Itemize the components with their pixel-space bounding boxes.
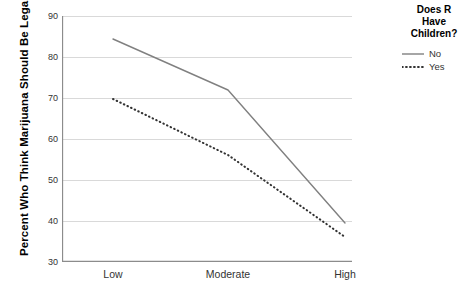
legend-title-line: Children? <box>398 28 470 40</box>
y-tick-label: 90 <box>28 12 58 21</box>
y-tick-label: 40 <box>28 217 58 226</box>
y-tick-label: 70 <box>28 94 58 103</box>
legend-label-no: No <box>429 48 441 59</box>
legend-title-line: Does R <box>398 4 470 16</box>
legend-item-no[interactable]: No <box>398 47 470 60</box>
y-tick-label: 50 <box>28 176 58 185</box>
legend-dotted-line-icon <box>402 63 424 71</box>
x-tick-label-high: High <box>334 268 356 280</box>
x-tick-label-moderate: Moderate <box>206 268 250 280</box>
legend: Does R Have Children? No Yes <box>398 4 470 73</box>
y-tick-label: 30 <box>28 258 58 267</box>
legend-item-yes[interactable]: Yes <box>398 60 470 73</box>
chart-container: Percent Who Think Marijuana Should Be Le… <box>0 0 470 302</box>
legend-items: No Yes <box>398 47 470 73</box>
x-tick-label-low: Low <box>103 268 122 280</box>
legend-label-yes: Yes <box>429 61 445 72</box>
legend-title: Does R Have Children? <box>398 4 470 40</box>
plot-svg <box>62 16 352 262</box>
legend-title-line: Have <box>398 16 470 28</box>
series-line-no <box>113 39 345 223</box>
y-axis-tick-labels: 90 80 70 60 50 40 30 <box>24 0 58 302</box>
y-tick-label: 80 <box>28 53 58 62</box>
plot-area <box>62 16 352 262</box>
series-line-yes <box>113 99 345 237</box>
legend-solid-line-icon <box>402 50 424 58</box>
y-tick-label: 60 <box>28 135 58 144</box>
x-axis-tick-labels: Low Moderate High <box>62 268 352 284</box>
gridlines <box>62 17 352 263</box>
